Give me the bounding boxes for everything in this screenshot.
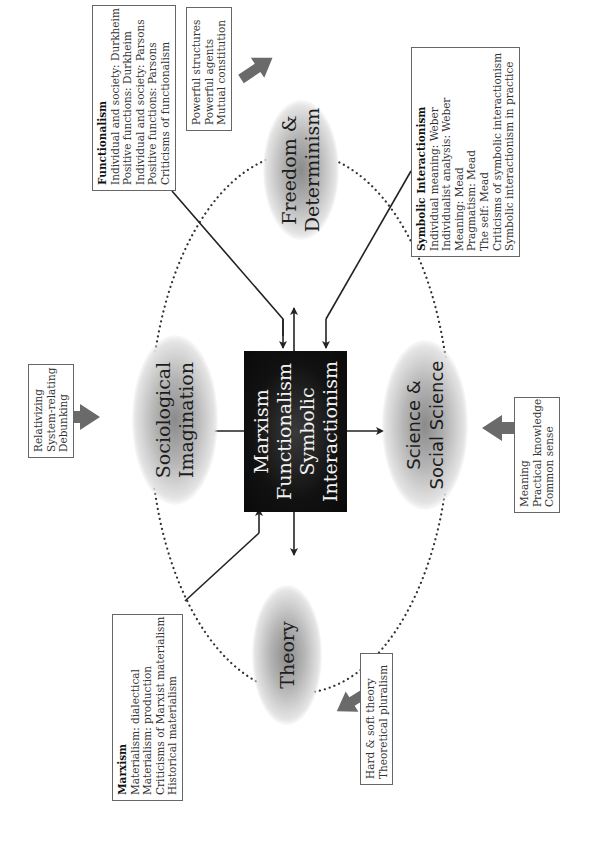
box-item: Hard & soft theory	[364, 659, 377, 779]
symbolic-interactionism-topics-box: Symbolic Interactionism Individual meani…	[411, 47, 520, 257]
central-perspectives-box: Marxism Functionalism Symbolic Interacti…	[244, 351, 347, 512]
marxism-connector	[185, 533, 259, 601]
box-item: Powerful agents	[203, 13, 216, 125]
marxism-topics-box: Marxism Materialism: dialectical Materia…	[112, 614, 183, 801]
box-item: Common sense	[543, 403, 556, 507]
box-item: Symbolic interactionism in practice	[503, 53, 516, 251]
center-line-functionalism: Functionalism	[273, 363, 296, 500]
box-item: Theoretical pluralism	[377, 659, 390, 779]
box-item: Criticisms of functionalism	[159, 11, 172, 185]
box-item: The self: Mead	[478, 53, 491, 251]
box-item: Historical materialism	[166, 620, 179, 795]
center-line-marxism: Marxism	[250, 389, 273, 473]
theme-sociological-imagination: Sociological Imagination	[132, 335, 218, 505]
center-line-symbolic: Symbolic	[296, 387, 319, 475]
sociological-notes-box: Relativizing System-relating Debunking	[28, 364, 74, 458]
functionalism-topics-box: Functionalism Individual and society: Du…	[92, 5, 176, 191]
box-item: Individual and society: Durkheim	[109, 11, 122, 185]
box-item: Individual meaning: Weber	[428, 53, 441, 251]
box-item: Pragmatism: Mead	[465, 53, 478, 251]
center-line-interactionism: Interactionism	[319, 361, 342, 502]
box-item: Individualist analysis: Weber	[440, 53, 453, 251]
science-notes-box: Meaning Practical knowledge Common sense	[514, 397, 560, 513]
box-item: System-relating	[45, 370, 58, 452]
diagram-canvas: Freedom & Determinism Sociological Imagi…	[0, 0, 591, 843]
box-item: Meaning: Mead	[453, 53, 466, 251]
box-item: Practical knowledge	[531, 403, 544, 507]
functionalism-connector	[172, 191, 283, 336]
box-item: Criticisms of Marxist materialism	[154, 620, 167, 795]
theme-science-social-science: Science & Social Science	[382, 340, 468, 510]
theme-theory: Theory	[252, 585, 322, 725]
box-item: Relativizing	[32, 370, 45, 452]
box-item: Individual and society: Parsons	[134, 11, 147, 185]
box-item: Meaning	[518, 403, 531, 507]
box-item: Positive functions: Parsons	[146, 11, 159, 185]
theme-freedom-determinism: Freedom & Determinism	[263, 100, 339, 240]
freedom-notes-box: Powerful structures Powerful agents Mutu…	[186, 7, 232, 131]
box-item: Debunking	[57, 370, 70, 452]
theme-label: Science & Social Science	[402, 361, 448, 490]
box-title: Functionalism	[96, 11, 109, 185]
box-item: Criticisms of symbolic interactionism	[491, 53, 504, 251]
theme-label: Freedom & Determinism	[278, 108, 324, 233]
theme-label: Theory	[276, 621, 299, 688]
theory-notes-box: Hard & soft theory Theoretical pluralism	[360, 653, 393, 785]
box-title: Symbolic Interactionism	[415, 53, 428, 251]
box-item: Mutual constitution	[215, 13, 228, 125]
box-item: Powerful structures	[190, 13, 203, 125]
box-title: Marxism	[116, 620, 129, 795]
box-item: Materialism: dialectical	[129, 620, 142, 795]
theme-label: Sociological Imagination	[152, 362, 198, 478]
gray-arrow-freedom	[234, 48, 279, 89]
symbolic-connector	[326, 171, 411, 319]
box-item: Positive functions: Durkheim	[121, 11, 134, 185]
box-item: Materialism: production	[141, 620, 154, 795]
